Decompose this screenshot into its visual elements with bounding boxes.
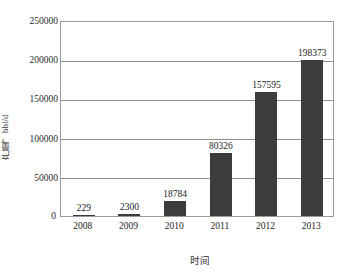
bar-data-label: 2300: [120, 202, 139, 212]
bar[interactable]: [73, 215, 95, 216]
bar-slot: 2300: [107, 22, 153, 216]
x-axis-tick-label: 2010: [151, 220, 197, 232]
y-axis-tick-label: 200000: [14, 55, 58, 65]
x-axis-title: 时间: [0, 255, 361, 267]
bar-slot: 198373: [289, 22, 335, 216]
bar-slot: 157595: [244, 22, 290, 216]
x-axis-tick-label: 2012: [243, 220, 289, 232]
y-axis-tick-label: 100000: [14, 134, 58, 144]
y-axis-tick-label: 150000: [14, 94, 58, 104]
y-axis-tick-label: 50000: [14, 173, 58, 183]
x-axis-tick-label: 2011: [197, 220, 243, 232]
bar[interactable]: [210, 153, 232, 216]
bar-data-label: 229: [77, 203, 91, 213]
bar[interactable]: [164, 201, 186, 216]
bar-data-label: 157595: [252, 80, 281, 90]
bar-slot: 18784: [152, 22, 198, 216]
bar-data-label: 198373: [298, 48, 327, 58]
x-axis-tick-label: 2008: [60, 220, 106, 232]
bar[interactable]: [118, 214, 140, 216]
y-axis-tick-label: 250000: [14, 16, 58, 26]
plot-area: 22923001878480326157595198373: [60, 21, 334, 217]
x-axis-tick-labels: 200820092010201120122013: [60, 220, 334, 234]
y-axis-zero-label: 0: [40, 211, 56, 221]
bar[interactable]: [255, 92, 277, 216]
bar-slot: 229: [61, 22, 107, 216]
bar-data-label: 80326: [209, 141, 233, 151]
bar-slot: 80326: [198, 22, 244, 216]
bar[interactable]: [301, 60, 323, 216]
bar-chart: 产量，bbl/d 50000100000150000200000250000 0…: [0, 0, 361, 279]
x-axis-tick-label: 2009: [106, 220, 152, 232]
x-axis-tick-label: 2013: [288, 220, 334, 232]
y-axis-tick-labels: 50000100000150000200000250000: [10, 0, 58, 279]
bar-data-label: 18784: [163, 189, 187, 199]
